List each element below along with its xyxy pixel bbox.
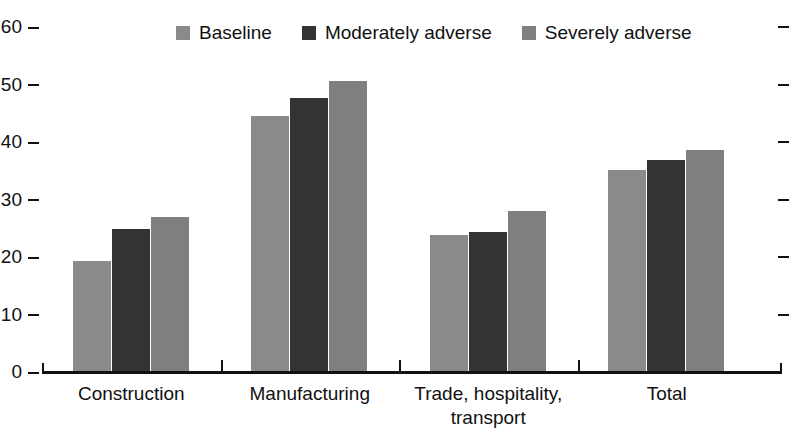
x-axis-category-label: Construction [42,382,221,406]
bar [73,261,111,372]
x-axis-right-cap [780,363,782,372]
y-axis-tick-60: 60 [1,17,42,37]
x-axis-category-label: Trade, hospitality, transport [399,382,578,430]
bar [112,229,150,372]
bar [290,98,328,372]
y-axis-tick-20: 20 [1,247,42,267]
bar [251,116,289,372]
bar [469,232,507,372]
y-axis-tick-0: 0 [11,362,42,382]
y-axis-tick-mark-icon [28,27,42,29]
y-axis-right-tick-mark-icon [778,26,789,28]
bar [508,211,546,372]
plot-area [42,27,756,372]
y-axis-tick-label: 20 [1,247,22,267]
y-axis-tick-label: 50 [1,75,22,95]
y-axis-tick-mark-icon [28,257,42,259]
y-axis-tick-label: 60 [1,17,22,37]
x-axis-left-cap [42,363,44,372]
y-axis-right-tick-mark-icon [778,256,789,258]
y-axis-tick-40: 40 [1,132,42,152]
y-axis-tick-label: 30 [1,190,22,210]
x-axis-separator-tick [399,360,401,372]
x-axis-separator-tick [578,360,580,372]
y-axis-tick-mark-icon [28,142,42,144]
y-axis-right-tick-mark-icon [778,314,789,316]
y-axis-tick-label: 10 [1,305,22,325]
x-axis-line [42,371,782,374]
bar [608,170,646,372]
y-axis-tick-10: 10 [1,305,42,325]
bar [686,150,724,372]
bar-chart: Baseline Moderately adverse Severely adv… [0,0,798,439]
x-axis-separator-tick [221,360,223,372]
bar-group-trade-hospitality-transport [430,27,547,372]
bar [151,217,189,372]
bar [329,81,367,372]
y-axis-right-tick-mark-icon [778,199,789,201]
bar [647,160,685,372]
y-axis-right-tick-mark-icon [778,84,789,86]
y-axis-tick-label: 40 [1,132,22,152]
bar-group-manufacturing [251,27,368,372]
x-axis-category-label: Total [578,382,757,406]
y-axis: 0102030405060 [0,0,42,439]
y-axis-right-tick-mark-icon [778,141,789,143]
x-axis-category-label: Manufacturing [221,382,400,406]
y-axis-tick-50: 50 [1,75,42,95]
bar [430,235,468,372]
y-axis-tick-30: 30 [1,190,42,210]
y-axis-tick-mark-icon [28,372,42,374]
y-axis-tick-mark-icon [28,314,42,316]
y-axis-tick-mark-icon [28,84,42,86]
y-axis-tick-label: 0 [11,362,22,382]
bar-group-total [608,27,725,372]
bar-group-construction [73,27,190,372]
y-axis-tick-mark-icon [28,199,42,201]
